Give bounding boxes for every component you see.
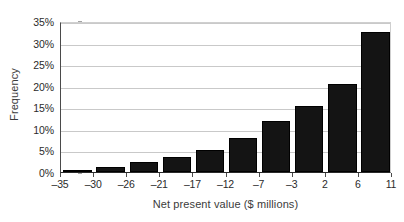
x-tick-mark bbox=[159, 173, 160, 177]
x-tick-mark bbox=[259, 173, 260, 177]
y-tick-label: 35% bbox=[33, 16, 54, 28]
x-tick-mark bbox=[93, 173, 94, 177]
y-tick-label: 5% bbox=[39, 145, 54, 157]
x-tick-label: –26 bbox=[118, 178, 135, 190]
bar bbox=[328, 84, 356, 172]
plot-area bbox=[60, 22, 391, 173]
y-axis-tick-labels: 0%5%10%15%20%25%30%35% bbox=[22, 22, 56, 173]
x-tick-label: 6 bbox=[355, 178, 361, 190]
x-tick-mark bbox=[60, 173, 61, 177]
y-tick-label: 20% bbox=[33, 81, 54, 93]
bar bbox=[96, 167, 124, 172]
x-tick-label: –7 bbox=[253, 178, 264, 190]
x-tick-mark bbox=[358, 173, 359, 177]
x-tick-label: –21 bbox=[151, 178, 168, 190]
x-axis-tick-labels: –35–30–26–21–17–12–7–32611 bbox=[60, 173, 391, 197]
bar bbox=[295, 106, 323, 172]
bar bbox=[130, 162, 158, 172]
x-tick-mark bbox=[391, 173, 392, 177]
x-tick-mark bbox=[292, 173, 293, 177]
y-tick-label: 30% bbox=[33, 38, 54, 50]
y-tick-label: 25% bbox=[33, 59, 54, 71]
x-tick-label: –30 bbox=[85, 178, 102, 190]
x-tick-label: –3 bbox=[286, 178, 297, 190]
x-tick-mark bbox=[226, 173, 227, 177]
x-tick-label: 2 bbox=[322, 178, 328, 190]
x-tick-label: –17 bbox=[184, 178, 201, 190]
bars-layer bbox=[61, 23, 390, 172]
x-tick-label: 11 bbox=[386, 178, 397, 190]
x-axis-title: Net present value ($ millions) bbox=[60, 198, 391, 210]
x-tick-mark bbox=[126, 173, 127, 177]
bar bbox=[196, 150, 224, 172]
y-tick-label: 15% bbox=[33, 102, 54, 114]
bar bbox=[262, 121, 290, 172]
x-tick-label: –12 bbox=[217, 178, 234, 190]
bar bbox=[163, 157, 191, 172]
y-axis-title: Frequency bbox=[8, 7, 22, 182]
histogram-chart: Frequency 0%5%10%15%20%25%30%35% –35–30–… bbox=[0, 0, 404, 222]
x-tick-label: –35 bbox=[52, 178, 69, 190]
x-tick-mark bbox=[192, 173, 193, 177]
x-tick-mark bbox=[325, 173, 326, 177]
y-tick-label: 10% bbox=[33, 124, 54, 136]
bar bbox=[361, 32, 389, 172]
bar bbox=[229, 138, 257, 172]
bar bbox=[63, 170, 91, 172]
